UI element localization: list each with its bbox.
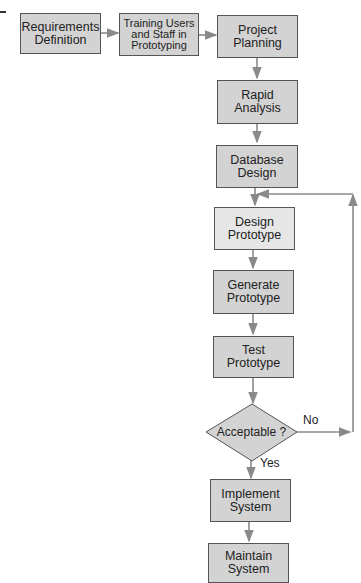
- edge-label-yes: Yes: [260, 456, 280, 470]
- node-database-design: Database Design: [216, 145, 298, 188]
- node-design-prototype: Design Prototype: [214, 207, 295, 250]
- node-training-users: Training Users and Staff in Prototyping: [119, 13, 199, 56]
- node-test-prototype: Test Prototype: [213, 336, 294, 378]
- node-maintain-system: Maintain System: [208, 543, 289, 583]
- node-implement-system: Implement System: [210, 479, 291, 522]
- edge-label-no: No: [303, 413, 318, 427]
- node-acceptable-decision: Acceptable ?: [206, 425, 297, 439]
- node-rapid-analysis: Rapid Analysis: [217, 80, 298, 124]
- node-project-planning: Project Planning: [217, 15, 298, 58]
- node-requirements-definition: Requirements Definition: [20, 13, 101, 54]
- node-generate-prototype: Generate Prototype: [213, 270, 294, 314]
